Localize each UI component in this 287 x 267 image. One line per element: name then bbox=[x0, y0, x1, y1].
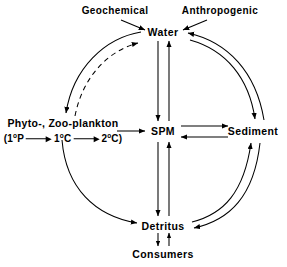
node-spm: SPM bbox=[151, 126, 175, 137]
edge-plankton-to-water-dashed bbox=[75, 43, 138, 116]
edge-geochemical-to-water bbox=[121, 20, 145, 30]
node-anthropogenic: Anthropogenic bbox=[182, 6, 258, 16]
node-plankton-title: Phyto-, Zoo-plankton bbox=[4, 118, 123, 129]
node-plankton-group: Phyto-, Zoo-plankton ( 1oP 1oC 2oC ) bbox=[4, 118, 123, 144]
node-water: Water bbox=[148, 27, 179, 38]
edge-water-to-plankton bbox=[66, 32, 141, 113]
edge-sediment-to-detritus bbox=[194, 143, 260, 228]
node-geochemical: Geochemical bbox=[82, 6, 149, 16]
arrow-right-icon bbox=[26, 135, 52, 142]
plankton-trophic-chain: ( 1oP 1oC 2oC ) bbox=[4, 134, 123, 144]
arrow-right-icon bbox=[73, 135, 99, 142]
node-detritus: Detritus bbox=[142, 221, 185, 232]
edge-plankton-to-detritus bbox=[62, 140, 137, 223]
edge-detritus-to-sediment bbox=[192, 143, 251, 222]
node-sediment: Sediment bbox=[228, 126, 278, 137]
chain-step-secondary-consumer: 2oC bbox=[101, 134, 118, 144]
diagram-canvas: Geochemical Anthropogenic Water Phyto-, … bbox=[0, 0, 287, 267]
edge-anthropogenic-to-water bbox=[183, 20, 207, 30]
chain-close-paren: ) bbox=[119, 134, 123, 144]
node-consumers: Consumers bbox=[132, 249, 193, 260]
chain-step-primary-consumer: 1oC bbox=[54, 134, 71, 144]
chain-step-primary-producer: 1oP bbox=[7, 134, 24, 144]
edge-water-to-sediment bbox=[190, 40, 255, 119]
